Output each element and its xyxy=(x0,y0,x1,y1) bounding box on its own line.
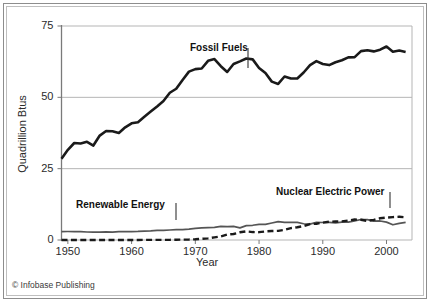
y-tick-label-25: 25 xyxy=(28,162,54,174)
y-axis-title: Quadrillion Btus xyxy=(16,79,28,189)
axis-lines xyxy=(58,25,387,244)
x-tick-label-1980: 1980 xyxy=(239,245,279,257)
series-line-fossil-fuels xyxy=(62,47,406,159)
series-label-nuclear-electric-power: Nuclear Electric Power xyxy=(276,186,384,197)
y-tick-label-50: 50 xyxy=(28,90,54,102)
x-tick-label-1990: 1990 xyxy=(303,245,343,257)
chart-figure: 0255075 195019601970198019902000 Quadril… xyxy=(0,0,430,302)
y-tick-label-0: 0 xyxy=(28,233,54,245)
series-label-renewable-energy: Renewable Energy xyxy=(76,199,165,210)
series-line-nuclear-electric-power xyxy=(62,217,406,240)
x-tick-label-2000: 2000 xyxy=(367,245,407,257)
series-line-renewable-energy xyxy=(62,220,406,233)
series-label-fossil-fuels: Fossil Fuels xyxy=(190,42,248,53)
x-tick-label-1960: 1960 xyxy=(112,245,152,257)
series-paths xyxy=(62,47,406,240)
y-tick-label-75: 75 xyxy=(28,19,54,31)
publisher-credit: © Infobase Publishing xyxy=(12,280,95,290)
x-tick-label-1950: 1950 xyxy=(48,245,88,257)
x-axis-title: Year xyxy=(196,256,218,268)
